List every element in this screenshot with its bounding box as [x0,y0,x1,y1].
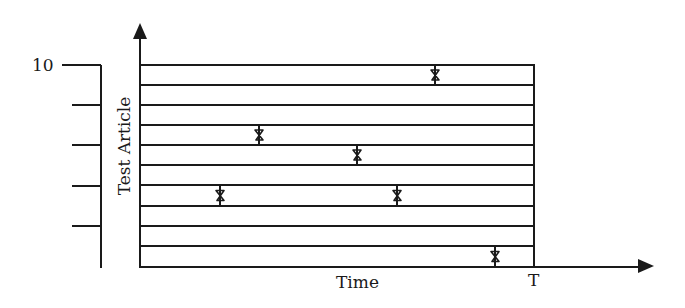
x-axis-label: Time [336,274,379,291]
event-marker-icon [216,185,224,206]
left-scale-bar [62,65,101,268]
event-marker-icon [353,145,361,165]
diagram-canvas [0,0,685,308]
scale-top-label: 10 [32,57,54,74]
event-marker-icon [491,246,499,267]
y-axis-arrowhead-icon [133,23,147,39]
test-article-strips [141,64,534,267]
y-axis-label: Test Article [116,97,133,196]
axes [133,23,654,273]
x-axis-arrowhead-icon [638,259,654,273]
x-end-label-T: T [528,272,539,289]
event-marker-icon [431,65,439,85]
event-marker-icon [255,125,263,145]
event-marker-icon [393,185,401,206]
